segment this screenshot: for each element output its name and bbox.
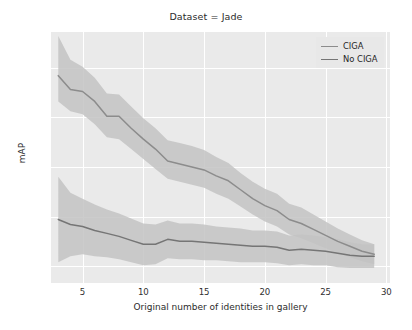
x-axis-tick-label: 5 xyxy=(63,287,103,297)
legend-line-ciga xyxy=(321,46,338,47)
chart-figure: Dataset = Jade mAP Original number of id… xyxy=(0,0,412,330)
legend-label-ciga: CIGA xyxy=(343,41,364,51)
legend-item-no-ciga[interactable]: No CIGA xyxy=(321,54,378,64)
x-axis-tick-label: 30 xyxy=(366,287,406,297)
plot-area xyxy=(51,32,390,283)
legend-label-no-ciga: No CIGA xyxy=(343,54,378,64)
x-axis-tick-label: 15 xyxy=(184,287,224,297)
x-axis-tick-label: 20 xyxy=(245,287,285,297)
x-axis-tick-label: 10 xyxy=(123,287,163,297)
x-axis-label: Original number of identities in gallery xyxy=(51,302,390,312)
chart-title: Dataset = Jade xyxy=(0,11,412,22)
legend-item-ciga[interactable]: CIGA xyxy=(321,41,378,51)
chart-canvas xyxy=(51,32,390,283)
x-axis-tick-label: 25 xyxy=(306,287,346,297)
legend-line-no-ciga xyxy=(321,59,338,60)
chart-legend: CIGA No CIGA xyxy=(316,37,384,68)
y-axis-label: mAP xyxy=(17,123,27,183)
